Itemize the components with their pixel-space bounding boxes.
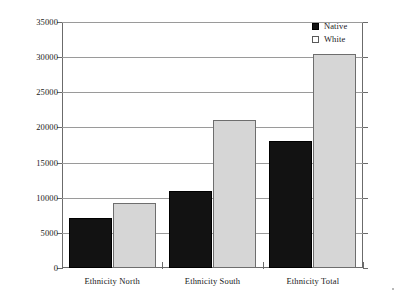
y-axis-label: 0 (54, 263, 58, 273)
bar-white-1 (213, 120, 256, 268)
y-axis-tick-right (363, 127, 368, 128)
x-axis-edge-tick-0 (62, 262, 63, 269)
y-axis-tick-right (363, 198, 368, 199)
bar-white-2 (313, 54, 356, 268)
legend-swatch-white-icon (312, 36, 319, 43)
x-axis-label-0: Ethnicity North (84, 276, 139, 286)
scan-artifact-speck (392, 288, 394, 290)
chart-legend: Native White (312, 20, 372, 46)
y-axis-tick-right (363, 57, 368, 58)
y-axis-tick-right (363, 233, 368, 234)
bar-native-2 (269, 141, 312, 268)
y-axis-label: 20000 (36, 122, 58, 132)
x-axis-tick (162, 262, 163, 269)
y-axis-label: 35000 (36, 17, 58, 27)
legend-label-native: Native (324, 21, 347, 31)
bar-native-0 (69, 218, 112, 268)
y-axis-tick-right (363, 163, 368, 164)
x-axis-label-2: Ethnicity Total (286, 276, 339, 286)
x-axis-edge-tick-1 (363, 262, 364, 269)
legend-item-white: White (312, 33, 372, 45)
bar-native-1 (169, 191, 212, 268)
y-axis-label: 15000 (36, 158, 58, 168)
x-axis-tick (263, 262, 264, 269)
y-axis-tick-right (363, 92, 368, 93)
y-axis-label: 5000 (41, 228, 58, 238)
y-axis-label: 25000 (36, 87, 58, 97)
bar-chart: 05000100001500020000250003000035000 Ethn… (0, 0, 402, 306)
legend-item-native: Native (312, 20, 372, 32)
y-axis-label: 30000 (36, 52, 58, 62)
legend-label-white: White (324, 34, 345, 44)
legend-swatch-native-icon (312, 23, 319, 30)
y-axis-label: 10000 (36, 193, 58, 203)
x-axis-label-1: Ethnicity South (185, 276, 240, 286)
bar-white-0 (113, 203, 156, 268)
